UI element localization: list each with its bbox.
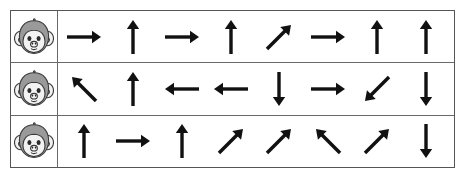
worksheet-row — [11, 116, 454, 167]
arrow-up-left-icon — [60, 63, 109, 114]
worksheet-grid — [10, 10, 455, 168]
arrow-up-icon — [206, 11, 255, 62]
arrow-left-icon — [158, 63, 207, 114]
worksheet-row — [11, 11, 454, 63]
cue-cell — [11, 116, 58, 167]
monkey-icon — [14, 70, 54, 108]
arrow-up-left-icon — [304, 116, 353, 167]
arrow-right-icon — [304, 63, 353, 114]
arrow-up-right-icon — [255, 11, 304, 62]
arrow-up-icon — [401, 11, 450, 62]
arrow-up-right-icon — [255, 116, 304, 167]
arrow-up-icon — [109, 63, 158, 114]
arrow-row-2 — [58, 63, 454, 114]
arrow-row-1 — [58, 11, 454, 62]
arrow-left-icon — [206, 63, 255, 114]
arrow-up-right-icon — [206, 116, 255, 167]
arrow-down-left-icon — [353, 63, 402, 114]
arrow-worksheet — [10, 10, 455, 168]
monkey-icon — [14, 18, 54, 56]
arrow-right-icon — [158, 11, 207, 62]
arrow-right-icon — [60, 11, 109, 62]
arrow-down-icon — [401, 63, 450, 114]
cue-cell — [11, 63, 58, 114]
arrow-right-icon — [109, 116, 158, 167]
monkey-icon — [14, 122, 54, 160]
cue-cell — [11, 11, 58, 62]
arrow-down-icon — [255, 63, 304, 114]
worksheet-row — [11, 63, 454, 115]
arrow-up-icon — [109, 11, 158, 62]
arrow-up-icon — [353, 11, 402, 62]
arrow-down-icon — [401, 116, 450, 167]
arrow-up-right-icon — [353, 116, 402, 167]
arrow-right-icon — [304, 11, 353, 62]
arrow-up-icon — [158, 116, 207, 167]
arrow-up-icon — [60, 116, 109, 167]
arrow-row-3 — [58, 116, 454, 167]
